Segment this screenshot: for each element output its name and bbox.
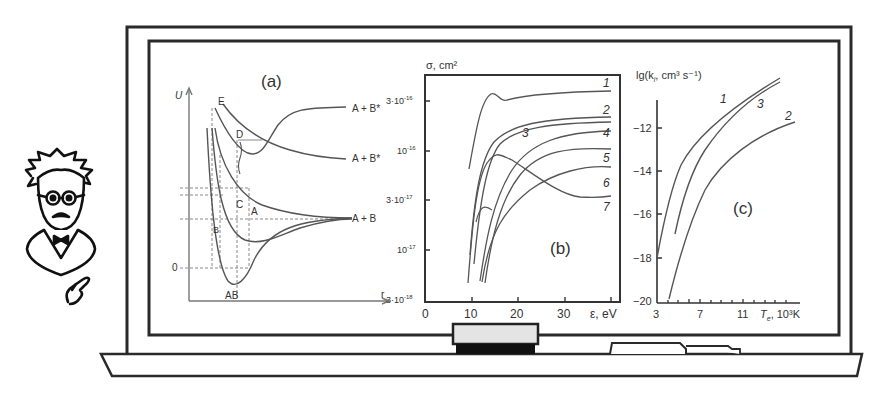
chart-c-panel-label: (c)	[733, 199, 753, 218]
svg-text:2: 2	[602, 103, 610, 117]
svg-text:3: 3	[653, 308, 659, 320]
board-ledge	[101, 354, 862, 376]
label-b: B	[213, 225, 219, 235]
svg-text:11: 11	[737, 308, 748, 320]
chart-a-zero-label: 0	[172, 262, 178, 273]
svg-text:−20: −20	[633, 295, 652, 307]
chart-b-panel-label: (b)	[550, 239, 571, 258]
chart-b-xlabel: ε, eV	[590, 307, 617, 321]
label-ab: AB	[225, 290, 239, 301]
svg-text:3: 3	[522, 126, 529, 140]
professor-icon	[26, 149, 95, 304]
chart-a-panel-label: (a)	[261, 72, 282, 91]
chart-c-ylabel: lg(ki, cm³ s⁻¹)	[636, 69, 702, 83]
label-c: C	[236, 199, 243, 210]
svg-text:5: 5	[603, 151, 610, 165]
svg-text:1: 1	[720, 92, 727, 106]
svg-text:−14: −14	[633, 165, 652, 177]
svg-text:30: 30	[557, 307, 571, 321]
eraser	[453, 324, 538, 354]
asymptote-label-2: A + B*	[352, 153, 380, 164]
svg-text:1: 1	[603, 76, 610, 90]
label-a: A	[251, 206, 258, 217]
label-e: E	[218, 96, 225, 107]
label-d: D	[236, 129, 243, 140]
svg-text:−12: −12	[633, 122, 652, 134]
svg-text:20: 20	[510, 307, 524, 321]
chart-c-xlabel: Te, 10³K	[760, 308, 801, 322]
svg-text:4: 4	[603, 126, 610, 140]
svg-text:7: 7	[697, 308, 703, 320]
svg-text:6: 6	[603, 176, 610, 190]
board-inner-frame	[149, 41, 839, 335]
chart-b-ylabel: σ, cm²	[426, 59, 458, 71]
chart-a-ylabel: U	[175, 90, 183, 101]
svg-text:2: 2	[784, 109, 792, 123]
asymptote-label-1: A + B*	[352, 103, 380, 114]
svg-text:3: 3	[757, 97, 764, 111]
svg-text:10: 10	[464, 307, 478, 321]
asymptote-label-3: A + B	[352, 213, 377, 224]
svg-text:−16: −16	[633, 208, 652, 220]
svg-text:−18: −18	[633, 252, 652, 264]
svg-text:0: 0	[422, 307, 429, 321]
